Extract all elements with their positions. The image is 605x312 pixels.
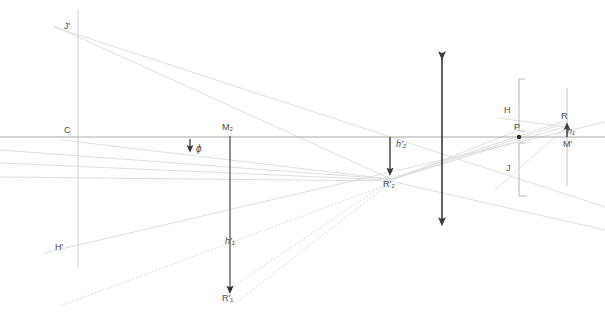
bracket-lower [519, 143, 527, 196]
ray-bundle-solid [0, 26, 605, 253]
label-h-right: H [504, 106, 511, 115]
label-m2: M₂ [222, 123, 233, 132]
dotted-r2-to-r1-b [238, 183, 390, 301]
label-h2-prime: h'₂ [396, 140, 406, 149]
label-r1-prime: R'₁ [222, 294, 233, 303]
label-h1-prime: h'₁ [225, 237, 235, 246]
ray-jprime-to-r2 [54, 26, 393, 180]
label-h1: h₁ [567, 127, 575, 136]
vertical-construction-lines [78, 10, 567, 268]
label-p: P [514, 123, 520, 132]
label-phi: ϕ [196, 144, 202, 154]
label-j-prime: J' [64, 22, 70, 31]
ray-r-down-to-jbracket [495, 127, 566, 190]
ray-r2-to-left-upper [0, 150, 390, 179]
ray-p-fan-upper [390, 121, 564, 179]
label-m-prime: M' [563, 140, 572, 149]
label-r-right: R [561, 112, 568, 121]
label-r2-prime: R'₂ [383, 180, 395, 189]
label-c: C [64, 126, 71, 135]
ray-r2-to-h [390, 123, 566, 180]
ray-hprime-to-right [44, 122, 605, 253]
dotted-r2-to-r1-a [231, 182, 388, 288]
ray-h-bracket-to-r [498, 118, 567, 127]
label-j-right: J [506, 164, 511, 173]
label-h-prime: H' [55, 243, 63, 252]
ray-diagram-svg [0, 0, 605, 312]
point-p-marker [517, 135, 521, 139]
ray-diagram-canvas: J' C H' M₂ ϕ h'₂ R'₂ h'₁ R'₁ H P J R h₁ … [0, 0, 605, 312]
ray-r2-up-to-h-bracket [390, 130, 519, 181]
ray-r2-to-r [390, 126, 567, 180]
